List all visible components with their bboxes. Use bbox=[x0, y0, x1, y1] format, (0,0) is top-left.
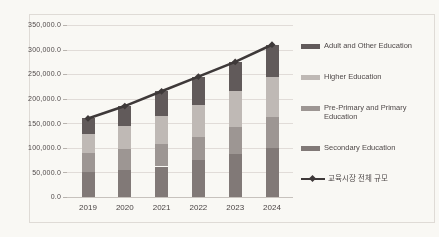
legend-item: Pre-Primary and Primary Education bbox=[301, 103, 435, 121]
line-marker-diamond-icon bbox=[85, 115, 92, 122]
legend-swatch-icon bbox=[301, 146, 320, 151]
line-marker-diamond-icon bbox=[158, 88, 165, 95]
legend-swatch-icon bbox=[301, 44, 320, 49]
line-marker-diamond-icon bbox=[121, 103, 128, 110]
legend-label: Pre-Primary and Primary Education bbox=[324, 103, 435, 121]
legend-item: Higher Education bbox=[301, 72, 435, 81]
legend-label: Secondary Education bbox=[324, 143, 395, 152]
legend-line-marker-icon bbox=[301, 175, 325, 183]
legend-label: Higher Education bbox=[324, 72, 382, 81]
legend-label: Adult and Other Education bbox=[324, 41, 412, 50]
line-marker-diamond-icon bbox=[195, 73, 202, 80]
legend-item-total-line: 교육시장 전체 규모 bbox=[301, 174, 435, 183]
legend-item: Secondary Education bbox=[301, 143, 435, 152]
legend-swatch-icon bbox=[301, 75, 320, 80]
chart: 0.050,000.0100,000.0150,000.0200,000.025… bbox=[0, 0, 439, 237]
legend-label: 교육시장 전체 규모 bbox=[328, 174, 388, 183]
total-line bbox=[88, 45, 272, 119]
legend-swatch-icon bbox=[301, 106, 320, 111]
chart-legend: Adult and Other EducationHigher Educatio… bbox=[301, 41, 435, 183]
legend-item: Adult and Other Education bbox=[301, 41, 435, 50]
